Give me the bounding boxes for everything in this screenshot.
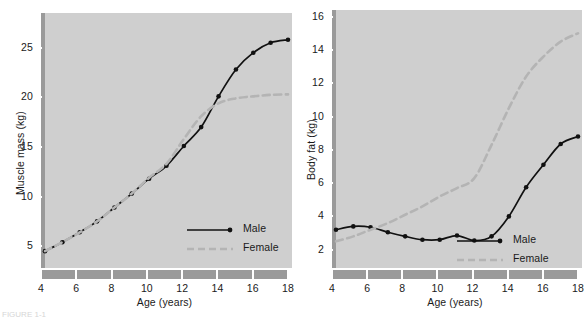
data-point bbox=[216, 94, 221, 99]
y-tick-label: 14 bbox=[298, 43, 324, 55]
data-point bbox=[437, 237, 442, 242]
y-axis-label-muscle-mass: Muscle mass (kg) bbox=[14, 111, 26, 195]
data-point bbox=[334, 227, 339, 232]
data-point bbox=[182, 144, 187, 149]
data-point bbox=[286, 37, 291, 42]
x-tick-label: 8 bbox=[98, 282, 126, 294]
y-tick-label: 20 bbox=[7, 90, 33, 102]
x-tick-mark bbox=[542, 269, 544, 280]
x-tick-label: 6 bbox=[353, 282, 381, 294]
y-tick-label: 25 bbox=[7, 41, 33, 53]
y-tick-mark bbox=[37, 146, 42, 148]
data-point bbox=[541, 163, 546, 168]
y-tick-mark bbox=[328, 49, 333, 51]
legend-label-female: Female bbox=[513, 252, 549, 264]
x-tick-label: 4 bbox=[318, 282, 346, 294]
data-point bbox=[199, 125, 204, 130]
y-tick-mark bbox=[37, 245, 42, 247]
x-axis-label-age-right: Age (years) bbox=[332, 296, 578, 308]
y-axis-label-body-fat: Body fat (kg) bbox=[305, 119, 317, 180]
legend-key-female-line bbox=[185, 241, 237, 256]
data-point bbox=[420, 237, 425, 242]
legend-key-male-line bbox=[185, 222, 237, 237]
legend-label-male: Male bbox=[243, 222, 266, 234]
data-point bbox=[234, 67, 239, 72]
x-tick-label: 10 bbox=[133, 282, 161, 294]
x-tick-mark bbox=[331, 269, 333, 280]
x-tick-mark bbox=[146, 269, 148, 280]
legend-key-female-line bbox=[455, 252, 507, 267]
y-tick-mark bbox=[328, 182, 333, 184]
legend-key-male-line bbox=[455, 233, 507, 248]
legend-label-female: Female bbox=[243, 241, 279, 253]
x-tick-mark bbox=[252, 269, 254, 280]
y-tick-mark bbox=[328, 249, 333, 251]
data-point bbox=[403, 234, 408, 239]
y-tick-mark bbox=[328, 82, 333, 84]
y-tick-mark bbox=[328, 215, 333, 217]
data-point bbox=[524, 185, 529, 190]
x-tick-label: 14 bbox=[494, 282, 522, 294]
x-tick-mark bbox=[401, 269, 403, 280]
x-tick-label: 12 bbox=[459, 282, 487, 294]
y-tick-mark bbox=[328, 116, 333, 118]
x-tick-label: 10 bbox=[423, 282, 451, 294]
data-point bbox=[558, 142, 563, 147]
x-tick-label: 16 bbox=[239, 282, 267, 294]
series-line-male bbox=[45, 40, 288, 251]
data-point bbox=[386, 230, 391, 235]
data-point bbox=[251, 50, 256, 55]
x-tick-mark bbox=[472, 269, 474, 280]
x-tick-mark bbox=[216, 269, 218, 280]
y-tick-label: 5 bbox=[7, 239, 33, 251]
x-tick-mark bbox=[366, 269, 368, 280]
x-tick-label: 6 bbox=[62, 282, 90, 294]
y-tick-label: 12 bbox=[298, 76, 324, 88]
x-tick-mark bbox=[507, 269, 509, 280]
legend-label-male: Male bbox=[513, 233, 536, 245]
x-tick-label: 4 bbox=[27, 282, 55, 294]
series-line-female bbox=[336, 33, 578, 241]
x-tick-mark bbox=[577, 269, 579, 280]
x-tick-label: 14 bbox=[203, 282, 231, 294]
chart-panel-muscle-mass: 510152025 4681012141618 Muscle mass (kg)… bbox=[0, 0, 292, 319]
data-point bbox=[507, 214, 512, 219]
y-tick-mark bbox=[37, 47, 42, 49]
x-tick-label: 16 bbox=[529, 282, 557, 294]
x-tick-mark bbox=[40, 269, 42, 280]
x-tick-mark bbox=[436, 269, 438, 280]
plot-area-body-fat bbox=[332, 10, 582, 268]
y-tick-label: 2 bbox=[298, 243, 324, 255]
x-tick-mark bbox=[111, 269, 113, 280]
figure-container: 510152025 4681012141618 Muscle mass (kg)… bbox=[0, 0, 585, 319]
x-tick-mark bbox=[287, 269, 289, 280]
chart-panel-body-fat: 246810121416 4681012141618 Body fat (kg)… bbox=[292, 0, 585, 319]
y-tick-label: 4 bbox=[298, 209, 324, 221]
x-tick-label: 12 bbox=[168, 282, 196, 294]
y-tick-mark bbox=[328, 149, 333, 151]
x-tick-mark bbox=[181, 269, 183, 280]
y-tick-mark bbox=[328, 16, 333, 18]
x-axis-label-age-left: Age (years) bbox=[41, 296, 288, 308]
x-tick-mark bbox=[75, 269, 77, 280]
x-tick-label: 18 bbox=[564, 282, 585, 294]
data-point bbox=[268, 40, 273, 45]
data-point bbox=[576, 134, 581, 139]
y-tick-mark bbox=[37, 196, 42, 198]
y-tick-mark bbox=[37, 96, 42, 98]
series-canvas-body-fat bbox=[336, 10, 578, 268]
data-point bbox=[351, 224, 356, 229]
x-tick-label: 8 bbox=[388, 282, 416, 294]
y-tick-label: 16 bbox=[298, 10, 324, 22]
figure-caption: FIGURE 1-1 bbox=[2, 310, 46, 319]
